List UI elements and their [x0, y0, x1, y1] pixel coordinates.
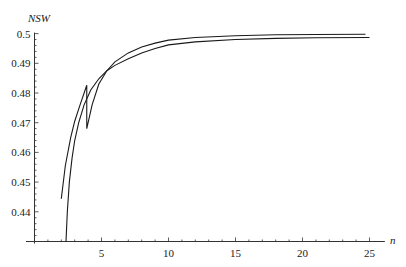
x-tick-label: 15: [230, 247, 242, 259]
y-tick-label: 0.45: [11, 176, 31, 188]
x-axis-title: n: [390, 234, 396, 246]
x-tick-label: 25: [364, 247, 376, 259]
y-tick-label: 0.49: [11, 57, 31, 69]
series-line-curve-a: [61, 34, 365, 199]
y-axis-title: NSW: [27, 12, 51, 24]
y-tick-label: 0.5: [17, 28, 31, 40]
x-tick-label: 5: [99, 247, 105, 259]
y-tick-label: 0.47: [11, 117, 31, 129]
series-line-curve-b: [66, 37, 370, 241]
ticks: [35, 34, 370, 242]
axes: [26, 33, 385, 244]
tick-labels: 5101520250.440.450.460.470.480.490.5: [11, 28, 375, 259]
y-tick-label: 0.46: [11, 146, 31, 158]
chart: 5101520250.440.450.460.470.480.490.5 NSW…: [0, 0, 406, 267]
series: [61, 34, 369, 241]
y-tick-label: 0.48: [11, 87, 31, 99]
y-tick-label: 0.44: [11, 206, 31, 218]
x-tick-label: 20: [297, 247, 309, 259]
x-tick-label: 10: [163, 247, 175, 259]
